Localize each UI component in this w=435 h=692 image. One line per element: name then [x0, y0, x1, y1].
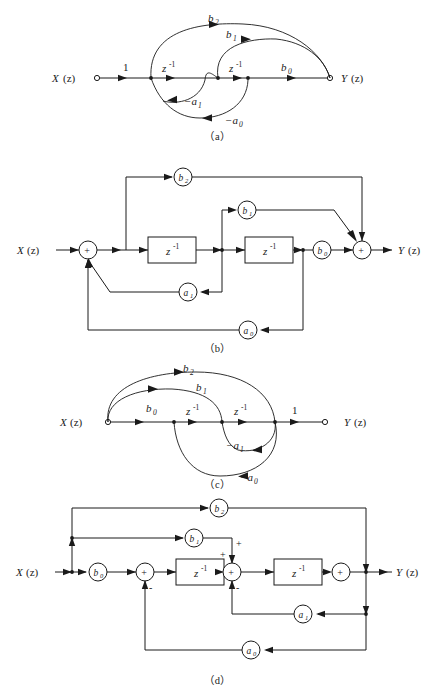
- label-delay-c-2: z: [233, 405, 239, 417]
- branch-b2-a: [151, 24, 330, 78]
- label-gain-neg-a1-a: −a: [184, 95, 197, 107]
- sign-d-adder2-minus: -: [236, 582, 239, 593]
- sign-d-adder1-minus: -: [149, 582, 152, 593]
- delay-block-d-1-exp: -1: [201, 564, 207, 573]
- label-input-a: X: [51, 72, 60, 84]
- arrowhead-b-b1-diag: [347, 230, 357, 242]
- arrowhead-c-4: [290, 419, 299, 425]
- label-delay-exp-a-2: -1: [236, 60, 242, 69]
- label-gain-b1-a: b: [226, 28, 232, 40]
- label-gain-b0-sub-a: 0: [288, 67, 292, 76]
- gain-b-a1-label: a: [184, 288, 189, 298]
- sign-d-adder2-plus-top: +: [236, 538, 242, 549]
- panel-d-diagram: b 2 b 1 b 0 + z -1: [0, 490, 435, 692]
- gain-d-b2-label: b: [215, 504, 220, 514]
- arrowhead-neg-a0-a: [202, 114, 212, 121]
- sign-d-adder2-plus-left: +: [220, 549, 226, 560]
- delay-block-d-2-exp: -1: [299, 564, 305, 573]
- delay-block-b-1-label: z: [165, 245, 171, 257]
- arrowhead-b1-c: [148, 385, 158, 392]
- delay-block-d-2-label: z: [291, 567, 297, 579]
- label-delay-a-2: z: [228, 62, 234, 74]
- label-output-arg-d: (z): [406, 566, 419, 579]
- adder-d-2-sign: +: [228, 567, 234, 578]
- gain-b-b0-label: b: [318, 246, 323, 256]
- arrowhead-output-b: [383, 247, 392, 253]
- panel-b: + b 2 z -1 b 1: [0, 152, 435, 352]
- branch-b1-a: [218, 39, 330, 78]
- label-input-arg-a: (z): [63, 72, 76, 85]
- label-input-b: X: [16, 244, 25, 256]
- branch-neg-a0-a: [151, 78, 248, 118]
- arrowhead-b-a1in: [200, 289, 209, 295]
- label-input-c: X: [59, 416, 68, 428]
- arrowhead-b-b2-drop: [359, 232, 365, 241]
- gain-d-b1-sub: 1: [196, 538, 199, 545]
- gain-b-b2-label: b: [179, 173, 184, 183]
- arrowhead-a-2: [166, 75, 175, 81]
- delay-block-d-2: [274, 559, 322, 585]
- label-gain-b1-sub-c: 1: [203, 387, 207, 396]
- arrowhead-b-2: [139, 247, 148, 253]
- adder-d-1-sign: +: [141, 567, 147, 578]
- gain-d-a1-sub: 1: [305, 614, 308, 621]
- panel-c: X (z) b 0 z -1 z -1 1 b 2 b 1 −a 1 −a 0 …: [0, 358, 435, 498]
- caption-b: （b）: [0, 340, 435, 355]
- label-gain-b0-sub-c: 0: [153, 408, 157, 417]
- sink-node-c: [322, 419, 327, 424]
- gain-d-b0-label: b: [94, 568, 99, 578]
- caption-c: （c）: [0, 476, 435, 491]
- panel-a: X (z) 1 z -1 z -1 b 0 b 2 b 1 −a 1 −a 0 …: [0, 0, 435, 150]
- label-delay-exp-c-2: -1: [241, 403, 247, 412]
- label-delay-a-1: z: [161, 62, 167, 74]
- gain-d-a0-label: a: [247, 646, 252, 656]
- arrowhead-c-3: [238, 419, 247, 425]
- node-a-3: [246, 76, 250, 80]
- label-output-a: Y: [341, 72, 349, 84]
- adder-b-2-sign: +: [358, 245, 364, 256]
- gain-d-a1-label: a: [299, 610, 304, 620]
- arrowhead-c-2: [188, 419, 197, 425]
- label-output-d: Y: [396, 566, 404, 578]
- branch-neg-a1-stem-a: [205, 73, 218, 80]
- arrowhead-input-b: [70, 247, 79, 253]
- label-output-arg-b: (z): [408, 244, 421, 257]
- panel-b-diagram: + b 2 z -1 b 1: [0, 152, 435, 352]
- label-gain-b0-c: b: [146, 402, 152, 414]
- arrowhead-b-a0in: [260, 327, 269, 333]
- arrowhead-neg-a1-c: [252, 446, 262, 454]
- gain-d-b1-label: b: [190, 534, 195, 544]
- arrowhead-d-b2in: [200, 505, 209, 511]
- arrowhead-b-b2in: [164, 174, 173, 180]
- label-output-c: Y: [344, 416, 352, 428]
- label-gain-neg-a0-a: −a: [225, 114, 238, 126]
- arrowhead-d-b0in: [78, 569, 87, 575]
- label-output-arg-c: (z): [354, 416, 367, 429]
- arrowhead-b-b1in: [228, 207, 237, 213]
- arrowhead-d-1: [127, 569, 136, 575]
- delay-block-b-2-exp: -1: [270, 242, 276, 251]
- gain-b-a1-sub: 1: [190, 292, 193, 299]
- arrowhead-d-a1in: [316, 611, 325, 617]
- gain-b-a0-label: a: [244, 326, 249, 336]
- panel-d: b 2 b 1 b 0 + z -1: [0, 490, 435, 692]
- delay-block-b-1: [148, 237, 196, 263]
- label-gain-b1-c: b: [196, 381, 202, 393]
- label-input-d: X: [15, 566, 24, 578]
- label-output-arg-a: (z): [351, 72, 364, 85]
- delay-block-d-1-label: z: [193, 567, 199, 579]
- arrowhead-b-6: [344, 247, 353, 253]
- source-node-a: [94, 75, 99, 80]
- arrowhead-d-a0in: [264, 647, 273, 653]
- label-gain-b2-sub-c: 2: [190, 368, 194, 377]
- arrowhead-b-1: [112, 247, 121, 253]
- arrowhead-d-a1-adder: [229, 580, 235, 589]
- adder-d-3-sign: +: [337, 567, 343, 578]
- label-gain-unity-a: 1: [123, 61, 129, 73]
- branch-b2-c: [108, 372, 275, 422]
- arrowhead-d-4: [265, 569, 274, 575]
- label-delay-c-1: z: [185, 405, 191, 417]
- label-gain-b2-sub-a: 2: [215, 18, 219, 27]
- label-gain-b2-c: b: [183, 362, 189, 374]
- label-gain-neg-a1-c: −a: [226, 439, 239, 451]
